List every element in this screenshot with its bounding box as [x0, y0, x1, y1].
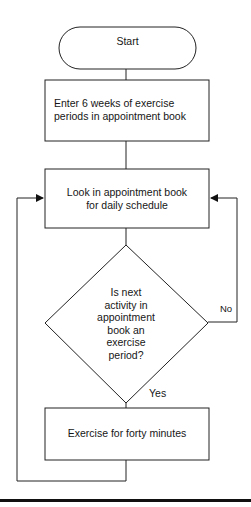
process-enter-line-2: periods in appointment book [54, 110, 214, 123]
process-look-label: Look in appointment book for daily sched… [45, 186, 209, 212]
decision-label: Is next activity in appointment book an … [76, 286, 176, 361]
branch-yes-label: Yes [149, 387, 166, 400]
start-label: Start [59, 35, 196, 48]
branch-no-label: No [220, 302, 232, 315]
process-exercise-label: Exercise for forty minutes [45, 427, 209, 440]
process-enter-label: Enter 6 weeks of exercise periods in app… [54, 97, 214, 123]
decision-line-4: book an [76, 324, 176, 337]
decision-line-5: exercise [76, 336, 176, 349]
decision-line-1: Is next [76, 286, 176, 299]
decision-line-2: activity in [76, 299, 176, 312]
decision-line-6: period? [76, 349, 176, 362]
process-look-line-1: Look in appointment book [45, 186, 209, 199]
decision-line-3: appointment [76, 311, 176, 324]
start-terminal [59, 27, 196, 69]
bottom-rule [0, 499, 251, 502]
process-enter-line-1: Enter 6 weeks of exercise [54, 97, 214, 110]
process-look-line-2: for daily schedule [45, 199, 209, 212]
